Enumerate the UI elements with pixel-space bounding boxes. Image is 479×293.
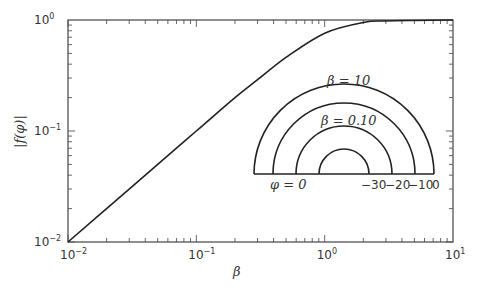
x-tick-label: 101	[445, 247, 465, 262]
y-axis-label: |f(φ)|	[12, 115, 27, 148]
y-tick-label: 10−1	[34, 123, 61, 138]
inset-label-zero: 0	[432, 178, 440, 192]
inset-semicircle	[254, 84, 434, 174]
inset-label-phi-0: φ = 0	[270, 177, 307, 192]
inset-semicircle	[319, 149, 369, 174]
inset-label-beta-010: β = 0.10	[320, 113, 377, 128]
x-tick-label: 10−2	[60, 247, 87, 262]
y-tick-label: 10−2	[34, 234, 61, 249]
y-tick-label: 100	[34, 12, 54, 27]
inset-label-beta-10: β = 10	[326, 73, 370, 88]
inset-semicircle	[296, 126, 392, 174]
x-axis-label: β	[232, 264, 241, 279]
x-tick-label: 10−1	[188, 247, 215, 262]
inset-label-m30: −30	[361, 178, 386, 192]
plot-frame	[68, 20, 453, 242]
chart-canvas: 10−210−110010110−210−1100β|f(φ)|β = 10β …	[0, 0, 479, 293]
inset-label-m20: −20	[385, 178, 410, 192]
inset-label-m10: −10	[408, 178, 433, 192]
x-tick-label: 100	[317, 247, 337, 262]
data-curve	[68, 20, 453, 242]
axis-ticks	[68, 20, 453, 242]
